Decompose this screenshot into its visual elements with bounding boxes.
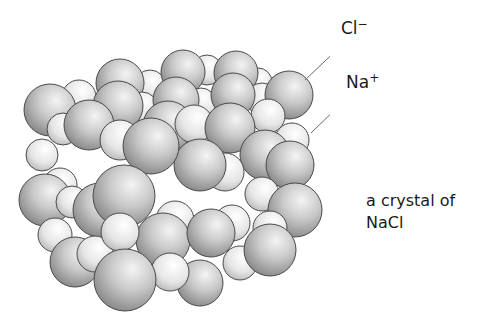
chloride-ion-sphere <box>244 224 296 276</box>
chloride-ion-sphere <box>94 249 156 311</box>
caption-line-2: NaCl <box>366 212 455 234</box>
caption-line-1: a crystal of <box>366 190 455 212</box>
nacl-crystal-lattice <box>0 0 330 323</box>
cl-leader-line <box>305 44 330 80</box>
sodium-ion-sphere <box>26 139 58 171</box>
cl-charge: − <box>358 17 368 31</box>
chloride-ion-label: Cl− <box>341 20 368 37</box>
diagram-caption: a crystal of NaCl <box>366 190 455 234</box>
chloride-ion-sphere <box>174 139 226 191</box>
sodium-ion-sphere <box>101 213 139 251</box>
chloride-ion-sphere <box>187 209 235 257</box>
sodium-ion-sphere <box>151 253 189 291</box>
na-charge: + <box>369 71 379 85</box>
na-symbol: Na <box>346 72 369 92</box>
na-leader-line <box>311 100 330 133</box>
sodium-ion-label: Na+ <box>346 74 379 91</box>
cl-symbol: Cl <box>341 18 358 38</box>
ion-spheres <box>19 50 322 311</box>
